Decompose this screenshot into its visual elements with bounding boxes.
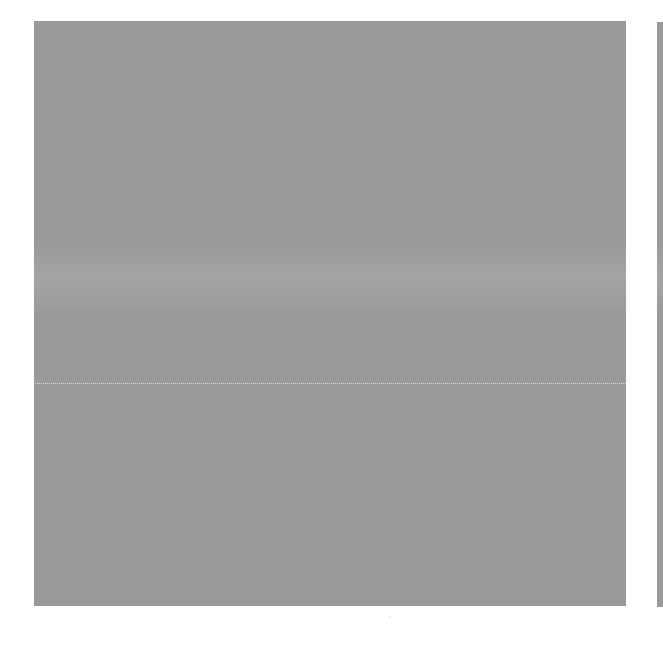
scan-line-artifact <box>34 383 626 384</box>
halftone-panel-right <box>657 22 663 607</box>
scan-speck-artifact <box>389 616 391 618</box>
halftone-panel-left <box>34 21 626 606</box>
